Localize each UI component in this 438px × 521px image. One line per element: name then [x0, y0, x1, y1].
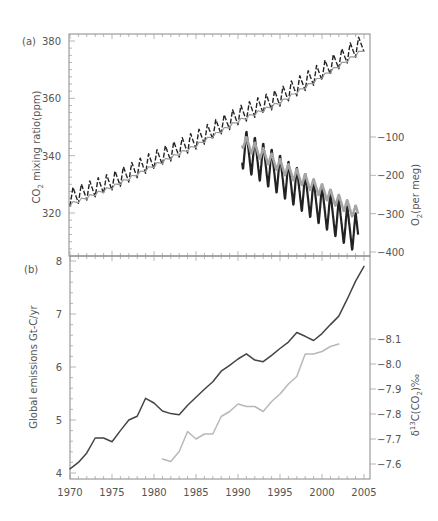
- figure: 320340360380−100−200−300−400 (a) CO2 mix…: [0, 0, 438, 521]
- panel-b: 45678−8.1−8.0−7.9−7.8−7.7−7.619701975198…: [24, 256, 424, 498]
- panel-a-right-tick-label: −200: [377, 170, 404, 181]
- panel-a-right-tick-label: −400: [377, 247, 404, 258]
- panel-b-series: [70, 266, 364, 469]
- panel-b-x-tick-label: 1995: [267, 487, 292, 498]
- panel-a-series: [70, 37, 364, 249]
- panel-b-x-tick-label: 2000: [309, 487, 334, 498]
- panel-b-right-tick-label: −7.9: [377, 384, 401, 395]
- panel-a-right-axis-title: O2(per meg): [410, 164, 424, 226]
- panel-b-frame: [70, 256, 370, 479]
- panel-a-right-tick-label: −100: [377, 132, 404, 143]
- panel-b-left-tick-label: 6: [56, 362, 62, 373]
- series-line: [242, 132, 358, 250]
- series-line: [70, 37, 364, 206]
- panel-a-label: (a): [22, 36, 36, 47]
- panel-a-left-tick-label: 380: [42, 36, 61, 47]
- panel-b-right-axis-title: δ13C(CO2)‰: [409, 374, 424, 437]
- panel-b-right-tick-label: −8.0: [377, 359, 401, 370]
- panel-b-left-tick-label: 7: [56, 309, 62, 320]
- panel-b-left-tick-label: 5: [56, 415, 62, 426]
- panel-b-left-tick-label: 4: [56, 468, 62, 479]
- panel-a-left-axis-title: CO2 mixing ratio(ppm): [31, 90, 45, 203]
- panel-b-left-axis-title: Global emissions Gt-C/yr: [28, 304, 39, 428]
- panel-a-right-tick-label: −300: [377, 209, 404, 220]
- panel-b-x-tick-label: 1970: [57, 487, 82, 498]
- panel-b-x-tick-label: 1975: [99, 487, 124, 498]
- panel-b-left-tick-label: 8: [56, 256, 62, 267]
- panel-a-frame: [69, 34, 370, 256]
- panel-b-label: (b): [24, 264, 38, 275]
- series-line: [162, 344, 338, 462]
- panel-b-x-tick-label: 1980: [141, 487, 166, 498]
- panel-a-left-tick-label: 360: [42, 93, 61, 104]
- series-line: [70, 51, 364, 206]
- panel-b-right-tick-label: −7.7: [377, 434, 401, 445]
- panel-a-left-tick-label: 320: [42, 208, 61, 219]
- panel-b-right-tick-label: −7.6: [377, 459, 401, 470]
- panel-b-x-tick-label: 1985: [183, 487, 208, 498]
- panel-b-right-tick-label: −8.1: [377, 334, 401, 345]
- panel-a-left-tick-label: 340: [42, 151, 61, 162]
- series-line: [70, 266, 364, 469]
- panel-b-x-tick-label: 1990: [225, 487, 250, 498]
- panel-a: 320340360380−100−200−300−400 (a) CO2 mix…: [22, 34, 424, 258]
- panel-b-right-tick-label: −7.8: [377, 409, 401, 420]
- panel-b-ticks: 45678−8.1−8.0−7.9−7.8−7.7−7.619701975198…: [56, 256, 402, 498]
- panel-b-x-tick-label: 2005: [351, 487, 376, 498]
